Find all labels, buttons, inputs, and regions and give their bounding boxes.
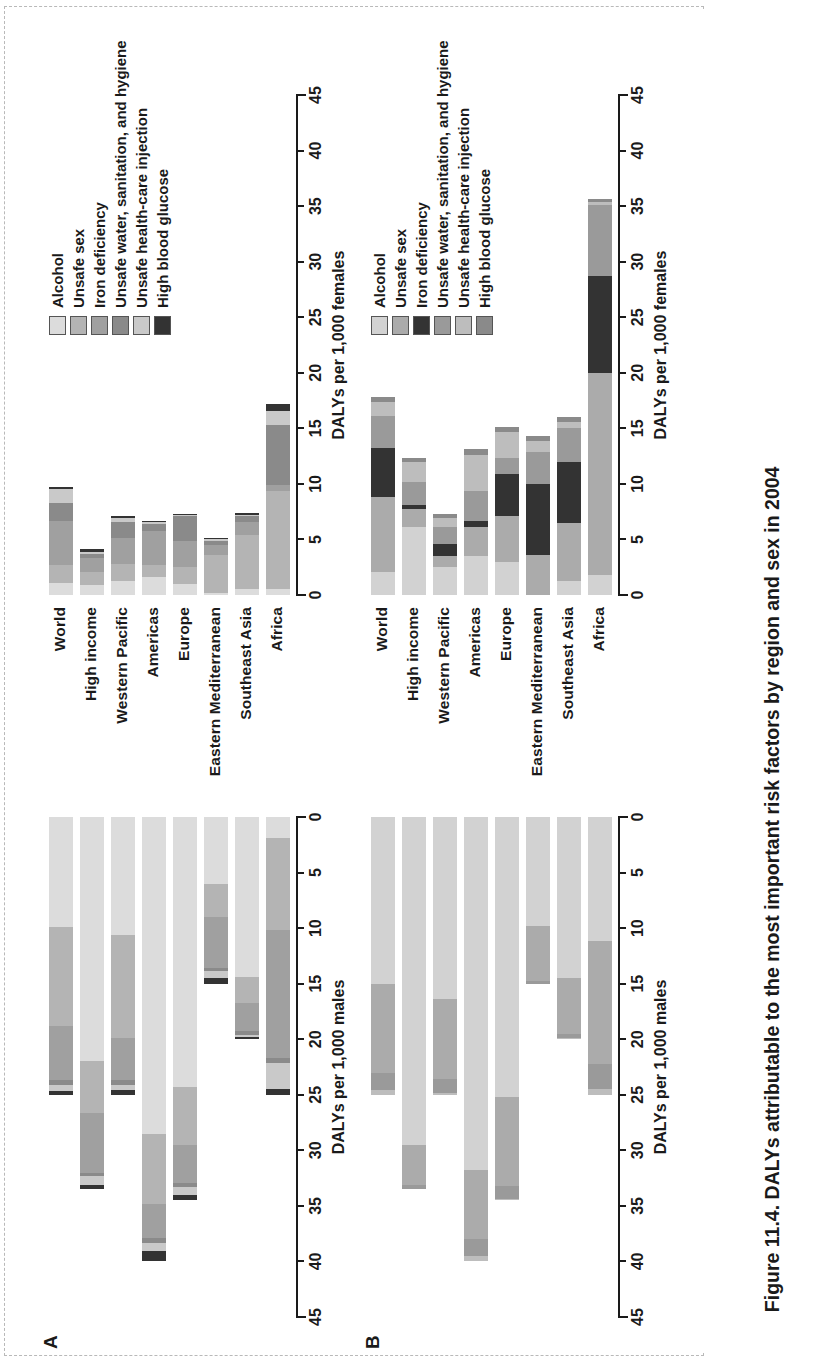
legend-label: Unsafe health-care injection xyxy=(133,108,150,308)
stacked-bar[interactable] xyxy=(204,817,228,984)
axis-tick-label: 0 xyxy=(307,591,325,600)
bar-segment xyxy=(464,521,488,528)
stacked-bar[interactable] xyxy=(235,817,259,1039)
axis-tick xyxy=(618,205,626,207)
axis-tick-label: 25 xyxy=(307,308,325,326)
bar-segment xyxy=(80,1113,104,1173)
stacked-bar[interactable] xyxy=(204,538,228,595)
bar-segment xyxy=(588,1089,612,1095)
stacked-bar[interactable] xyxy=(588,199,612,595)
axis-tick xyxy=(296,483,304,485)
stacked-bar[interactable] xyxy=(111,516,135,595)
legend-item[interactable]: Alcohol xyxy=(370,40,389,335)
stacked-bar[interactable] xyxy=(142,817,166,1261)
legend-swatch-icon xyxy=(392,316,409,335)
region-label: Americas xyxy=(144,607,162,678)
region-label-row: Southeast Asia xyxy=(232,603,262,811)
chart-panel-a: A051015202530354045DALYs per 1,000 males… xyxy=(46,11,346,1351)
axis-tick-label: 45 xyxy=(629,86,647,104)
bar-segment xyxy=(266,817,290,838)
legend-item[interactable]: Alcohol xyxy=(48,40,67,335)
stacked-bar[interactable] xyxy=(371,397,395,595)
stacked-bar[interactable] xyxy=(49,487,73,595)
stacked-bar[interactable] xyxy=(433,514,457,595)
bar-segment xyxy=(49,817,73,927)
stacked-bar[interactable] xyxy=(173,514,197,595)
bar-segment xyxy=(266,589,290,595)
bar-segment xyxy=(371,817,395,984)
bar-segment xyxy=(111,564,135,581)
region-label: High income xyxy=(82,607,100,701)
bar-segment xyxy=(433,518,457,527)
legend-item[interactable]: High blood glucose xyxy=(153,40,172,335)
stacked-bar[interactable] xyxy=(173,817,197,1200)
stacked-bar[interactable] xyxy=(49,817,73,1095)
bar-segment xyxy=(371,416,395,448)
bar-row xyxy=(554,817,584,1317)
legend-item[interactable]: Unsafe water, sanitation, and hygiene xyxy=(433,40,452,335)
stacked-bar[interactable] xyxy=(433,817,457,1095)
bar-segment xyxy=(495,1097,519,1186)
bar-segment xyxy=(235,515,259,516)
bar-segment xyxy=(235,516,259,522)
bar-segment xyxy=(80,558,104,571)
axis-tick xyxy=(296,927,304,929)
stacked-bar[interactable] xyxy=(266,817,290,1095)
legend-item[interactable]: Iron deficiency xyxy=(412,40,431,335)
bar-segment xyxy=(173,516,197,540)
axis-tick-label: 45 xyxy=(629,1308,647,1326)
bar-segment xyxy=(142,1238,166,1242)
stacked-bar[interactable] xyxy=(495,817,519,1200)
legend-item[interactable]: High blood glucose xyxy=(475,40,494,335)
axis-tick-label: 5 xyxy=(629,868,647,877)
legend-label: Unsafe sex xyxy=(70,229,87,308)
bar-segment xyxy=(557,978,581,1034)
legend-item[interactable]: Unsafe sex xyxy=(69,40,88,335)
bar-segment xyxy=(266,491,290,590)
stacked-bar[interactable] xyxy=(557,417,581,595)
bar-row xyxy=(139,817,169,1317)
axis-tick xyxy=(618,1205,626,1207)
bar-segment xyxy=(433,1079,457,1092)
legend-item[interactable]: Unsafe water, sanitation, and hygiene xyxy=(111,40,130,335)
bar-segment xyxy=(204,555,228,593)
stacked-bar[interactable] xyxy=(588,817,612,1095)
bar-segment xyxy=(371,402,395,416)
legend-label: Unsafe water, sanitation, and hygiene xyxy=(112,40,129,308)
female-axis: 051015202530354045DALYs per 1,000 female… xyxy=(618,95,662,595)
bar-segment xyxy=(80,1176,104,1185)
bar-row xyxy=(585,817,615,1317)
axis-tick-label: 30 xyxy=(307,253,325,271)
bar-segment xyxy=(80,554,104,558)
stacked-bar[interactable] xyxy=(526,817,550,984)
stacked-bar[interactable] xyxy=(402,458,426,595)
stacked-bar[interactable] xyxy=(526,436,550,595)
axis-tick-label: 5 xyxy=(307,535,325,544)
stacked-bar[interactable] xyxy=(402,817,426,1189)
stacked-bar[interactable] xyxy=(235,513,259,595)
bar-segment xyxy=(111,817,135,935)
stacked-bar[interactable] xyxy=(371,817,395,1095)
stacked-bar[interactable] xyxy=(266,404,290,595)
stacked-bar[interactable] xyxy=(80,549,104,595)
axis-tick-label: 0 xyxy=(629,591,647,600)
bar-row xyxy=(170,95,200,595)
region-label-row: Americas xyxy=(461,603,491,811)
legend-swatch-icon xyxy=(371,316,388,335)
bar-segment xyxy=(235,589,259,595)
stacked-bar[interactable] xyxy=(142,521,166,595)
legend-item[interactable]: Unsafe health-care injection xyxy=(132,40,151,335)
stacked-bar[interactable] xyxy=(111,817,135,1095)
stacked-bar[interactable] xyxy=(495,427,519,595)
legend-item[interactable]: Unsafe sex xyxy=(391,40,410,335)
stacked-bar[interactable] xyxy=(557,817,581,1039)
legend-item[interactable]: Iron deficiency xyxy=(90,40,109,335)
axis-tick xyxy=(618,1316,628,1318)
stacked-bar[interactable] xyxy=(464,817,488,1261)
bar-segment xyxy=(402,509,426,527)
stacked-bar[interactable] xyxy=(464,449,488,595)
bar-segment xyxy=(526,484,550,555)
stacked-bar[interactable] xyxy=(80,817,104,1189)
legend-item[interactable]: Unsafe health-care injection xyxy=(454,40,473,335)
axis-tick xyxy=(296,1149,304,1151)
